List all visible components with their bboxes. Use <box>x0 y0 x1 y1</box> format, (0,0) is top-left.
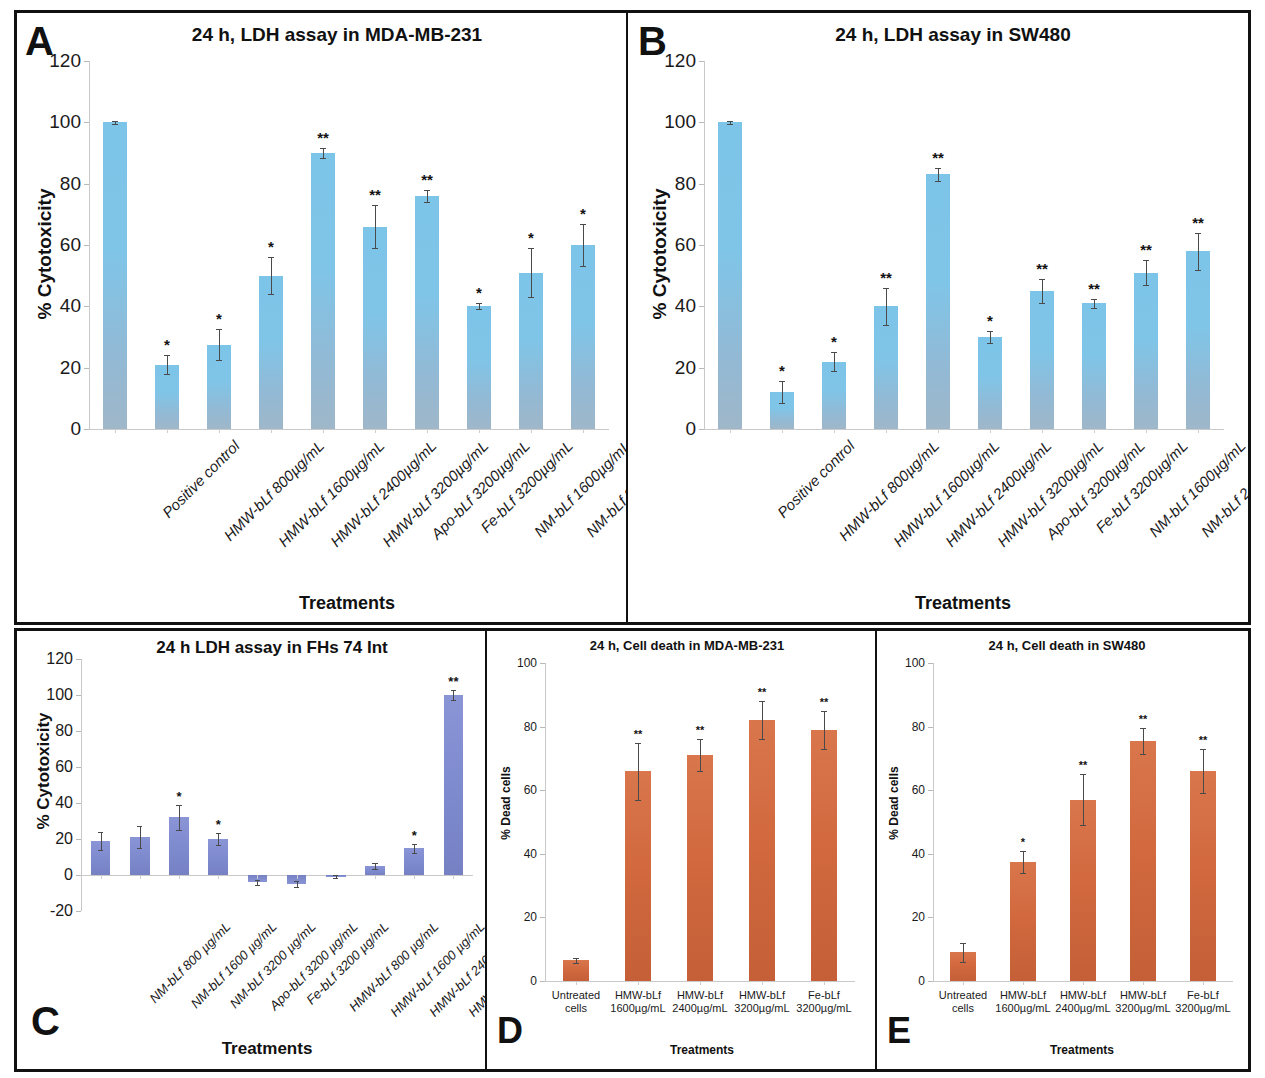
error-bar <box>1143 728 1144 753</box>
error-bar-cap-top <box>697 739 704 740</box>
significance-marker: ** <box>634 729 643 740</box>
y-axis-tick <box>699 245 704 246</box>
y-axis-tick-label: 80 <box>55 722 73 740</box>
y-axis-tick-label: 20 <box>675 357 696 379</box>
significance-marker: * <box>268 239 274 254</box>
x-axis-tick <box>531 429 532 433</box>
error-bar-cap-top <box>960 943 967 944</box>
y-axis-tick-label: -20 <box>50 902 73 920</box>
x-axis-tick <box>453 875 454 879</box>
panel-a-plot: 020406080100120************ <box>89 61 609 429</box>
y-axis-line <box>89 61 90 429</box>
x-axis-tick <box>1198 429 1199 433</box>
y-axis-tick <box>540 727 545 728</box>
x-axis-tick <box>101 875 102 879</box>
panel-b-xlabel: Treatments <box>763 593 1163 614</box>
x-axis-tick <box>1023 981 1024 985</box>
x-axis-category-label: HMW-bLf 3200µg/mL <box>1109 989 1177 1014</box>
significance-marker: * <box>216 311 222 326</box>
y-axis-tick <box>76 911 81 912</box>
panel-b: B 24 h, LDH assay in SW480 % Cytotoxicit… <box>628 10 1251 625</box>
x-axis-tick <box>375 429 376 433</box>
error-bar-cap-top <box>1143 260 1149 261</box>
x-axis-category-label: HMW-bLf 3200µg/mL <box>727 989 797 1014</box>
y-axis-tick-label: 80 <box>60 173 81 195</box>
y-axis-tick <box>540 663 545 664</box>
bar <box>1190 771 1215 981</box>
bar <box>571 245 595 429</box>
panel-b-plot-area: 020406080100120*************** <box>704 61 1224 429</box>
y-axis-tick-label: 0 <box>70 418 81 440</box>
bar <box>1070 800 1095 981</box>
y-axis-line <box>81 659 82 911</box>
error-bar-cap-top <box>98 832 103 833</box>
panel-a-plot-area: 020406080100120************ <box>89 61 609 429</box>
error-bar-cap-top <box>831 352 837 353</box>
y-axis-tick-label: 80 <box>912 720 925 734</box>
y-axis-tick <box>540 790 545 791</box>
significance-marker: ** <box>1088 281 1100 296</box>
error-bar <box>886 288 887 325</box>
x-axis-tick <box>824 981 825 985</box>
y-axis-tick-label: 100 <box>905 656 925 670</box>
panel-d-letter: D <box>497 1013 522 1049</box>
x-axis-category-label: HMW-bLf 800 µg/mL <box>346 919 441 1014</box>
error-bar <box>414 844 415 853</box>
bar <box>467 306 491 429</box>
panel-d-ylabel: % Dead cells <box>499 738 513 868</box>
error-bar-cap-top <box>137 826 142 827</box>
error-bar <box>1083 774 1084 825</box>
panel-a: A 24 h, LDH assay in MDA-MB-231 % Cytoto… <box>14 10 628 625</box>
error-bar-cap-bottom <box>1195 270 1201 271</box>
significance-marker: * <box>412 829 417 842</box>
y-axis-tick-label: 60 <box>912 783 925 797</box>
significance-marker: * <box>987 313 993 328</box>
y-axis-tick <box>84 306 89 307</box>
bar <box>363 227 387 429</box>
panel-e-plot-area: 020406080100******* <box>933 663 1233 981</box>
y-axis-tick <box>76 695 81 696</box>
x-axis-tick <box>179 875 180 879</box>
y-axis-tick-label: 20 <box>55 830 73 848</box>
y-axis-tick-label: 40 <box>912 847 925 861</box>
significance-marker: ** <box>369 187 381 202</box>
bar <box>687 755 713 981</box>
significance-marker: ** <box>317 130 329 145</box>
error-bar-cap-bottom <box>821 749 828 750</box>
x-axis-tick <box>323 429 324 433</box>
x-axis-tick <box>576 981 577 985</box>
error-bar <box>219 329 220 360</box>
x-axis-tick <box>271 429 272 433</box>
error-bar <box>453 690 454 701</box>
y-axis-tick-label: 60 <box>55 758 73 776</box>
x-axis-tick <box>115 429 116 433</box>
y-axis-tick-label: 0 <box>918 974 925 988</box>
x-axis-category-label: Untreated cells <box>929 989 997 1014</box>
error-bar-cap-bottom <box>528 297 534 298</box>
error-bar-cap-top <box>216 329 222 330</box>
x-axis-category-label: NM-bLf 3200µg/mL <box>1250 437 1251 540</box>
error-bar-cap-bottom <box>412 853 417 854</box>
y-axis-tick <box>76 839 81 840</box>
x-axis-tick <box>167 429 168 433</box>
significance-marker: ** <box>1192 215 1204 230</box>
y-axis-tick <box>76 803 81 804</box>
y-axis-tick-label: 0 <box>64 866 73 884</box>
x-axis-tick <box>297 875 298 879</box>
error-bar-cap-top <box>635 743 642 744</box>
x-axis-tick <box>257 875 258 879</box>
error-bar-cap-top <box>112 121 118 122</box>
error-bar-cap-top <box>412 844 417 845</box>
error-bar <box>1042 279 1043 304</box>
x-axis-tick <box>1203 981 1204 985</box>
x-axis-tick <box>730 429 731 433</box>
y-axis-tick <box>699 306 704 307</box>
bar <box>978 337 1002 429</box>
error-bar-cap-bottom <box>1080 825 1087 826</box>
error-bar-cap-bottom <box>216 845 221 846</box>
significance-marker: * <box>164 337 170 352</box>
panel-e-title: 24 h, Cell death in SW480 <box>902 639 1232 653</box>
error-bar-cap-top <box>1020 851 1027 852</box>
panel-d: D 24 h, Cell death in MDA-MB-231 % Dead … <box>487 628 877 1072</box>
significance-marker: ** <box>1036 261 1048 276</box>
